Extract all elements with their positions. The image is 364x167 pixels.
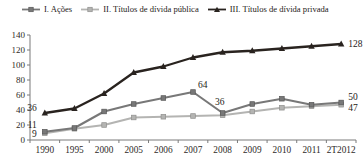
svg-text:1995: 1995 (65, 145, 84, 155)
svg-text:2T2012: 2T2012 (327, 145, 356, 155)
svg-text:50: 50 (348, 92, 358, 102)
svg-text:2000: 2000 (95, 145, 114, 155)
svg-text:128: 128 (348, 39, 363, 49)
svg-text:36: 36 (215, 97, 225, 107)
line-chart-canvas: 0204060801001201401990199520002005200620… (0, 0, 364, 167)
svg-text:2005: 2005 (124, 145, 143, 155)
svg-text:20: 20 (16, 120, 26, 130)
svg-text:36: 36 (27, 103, 37, 113)
svg-text:2009: 2009 (243, 145, 262, 155)
financial-markets-line-chart-figure: I. Ações II. Títulos de dívida pública I… (0, 0, 364, 167)
series-1 (43, 102, 344, 135)
svg-text:100: 100 (12, 60, 26, 70)
svg-text:60: 60 (16, 90, 26, 100)
svg-text:11: 11 (28, 120, 37, 130)
svg-text:9: 9 (32, 129, 37, 139)
svg-text:64: 64 (198, 80, 208, 90)
svg-text:140: 140 (12, 30, 26, 40)
svg-text:2010: 2010 (273, 145, 292, 155)
svg-text:2011: 2011 (302, 145, 321, 155)
svg-text:2006: 2006 (154, 145, 173, 155)
svg-text:1990: 1990 (36, 145, 55, 155)
svg-text:47: 47 (348, 103, 358, 113)
svg-text:2007: 2007 (184, 145, 203, 155)
svg-text:40: 40 (16, 105, 26, 115)
svg-text:120: 120 (12, 45, 26, 55)
series-2 (42, 41, 345, 116)
svg-text:2008: 2008 (213, 145, 232, 155)
svg-text:80: 80 (16, 75, 26, 85)
svg-text:0: 0 (21, 135, 26, 145)
